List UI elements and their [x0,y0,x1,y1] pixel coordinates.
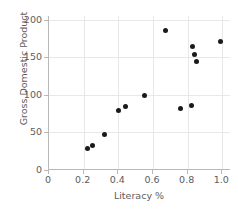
data-point [85,146,90,151]
data-point [189,103,194,108]
gridline-vertical [222,16,223,169]
data-point [163,28,168,33]
data-point [123,104,128,109]
gridline-vertical [118,16,119,169]
data-point [90,143,95,148]
y-tick-mark [44,57,48,58]
data-point [194,59,199,64]
data-point [116,108,121,113]
gridline-vertical [188,16,189,169]
y-tick-mark [44,20,48,21]
gridline-horizontal [49,57,230,58]
data-point [190,44,195,49]
y-tick-mark [44,132,48,133]
y-tick-label: 150 [0,51,42,62]
y-tick-label: 50 [0,126,42,137]
data-point [178,106,183,111]
data-point [142,93,147,98]
gridline-horizontal [49,95,230,96]
y-tick-mark [44,95,48,96]
x-axis-title: Literacy % [48,190,230,201]
scatter-plot-figure: Gross Domestic Product Literacy % 050100… [0,0,238,214]
x-tick-label: 1.0 [201,174,238,185]
y-tick-label: 200 [0,14,42,25]
gridline-vertical [153,16,154,169]
gridline-horizontal [49,20,230,21]
plot-area [48,16,230,170]
data-point [102,132,107,137]
y-tick-label: 100 [0,89,42,100]
gridline-horizontal [49,132,230,133]
data-point [192,52,197,57]
